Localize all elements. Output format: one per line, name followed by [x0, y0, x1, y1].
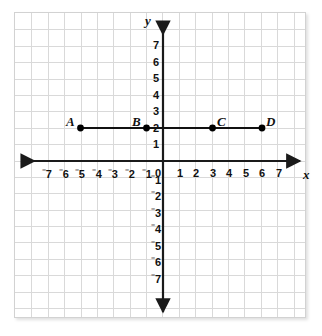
- x-tick-neg5: ⁻5: [75, 168, 85, 180]
- y-tick-7: 7: [153, 40, 159, 51]
- y-tick-2: 2: [153, 123, 159, 134]
- x-tick-neg2: ⁻2: [125, 168, 135, 180]
- x-tick-1: 1: [177, 168, 183, 179]
- y-tick-neg5: ⁻5: [151, 240, 161, 252]
- y-tick-4: 4: [153, 90, 159, 101]
- y-tick-neg3: ⁻3: [151, 207, 161, 219]
- point-label-A: A: [66, 114, 75, 130]
- x-tick-neg3: ⁻3: [108, 168, 118, 180]
- y-axis-label: y: [145, 13, 151, 29]
- x-tick-3: 3: [210, 168, 216, 179]
- x-tick-neg7: ⁻7: [42, 168, 52, 180]
- x-tick-5: 5: [243, 168, 249, 179]
- x-axis-label: x: [303, 167, 310, 183]
- x-tick-7: 7: [276, 168, 282, 179]
- x-tick-neg4: ⁻4: [92, 168, 102, 180]
- point-label-B: B: [132, 114, 141, 130]
- y-tick-neg2: ⁻2: [151, 190, 161, 202]
- y-tick-5: 5: [153, 73, 159, 84]
- grid-lines: [15, 13, 305, 317]
- x-tick-4: 4: [226, 168, 232, 179]
- x-tick-2: 2: [193, 168, 199, 179]
- y-tick-3: 3: [153, 106, 159, 117]
- y-tick-neg6: ⁻6: [151, 256, 161, 268]
- x-tick-neg1: ⁻1: [142, 168, 152, 180]
- x-tick-neg6: ⁻6: [59, 168, 69, 180]
- x-tick-6: 6: [259, 168, 265, 179]
- y-tick-1: 1: [153, 139, 159, 150]
- y-tick-6: 6: [153, 57, 159, 68]
- coordinate-plane-figure: ⁻7 ⁻6 ⁻5 ⁻4 ⁻3 ⁻2 ⁻1 1 2 3 4 5 6 7 0 7 6…: [0, 0, 322, 336]
- y-tick-neg7: ⁻7: [151, 273, 161, 285]
- y-tick-neg1: ⁻1: [151, 174, 161, 186]
- point-label-D: D: [266, 114, 275, 130]
- y-tick-neg4: ⁻4: [151, 223, 161, 235]
- point-label-C: C: [217, 114, 226, 130]
